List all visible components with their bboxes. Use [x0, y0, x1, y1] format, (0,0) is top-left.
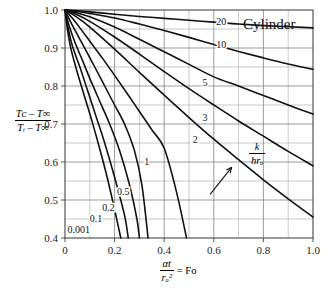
- y-axis-label: Tᴄ – T∞ Tᵢ – T∞: [4, 108, 62, 133]
- x-tick-label: 0.4: [157, 244, 171, 256]
- x-axis-numerator: αt: [160, 258, 174, 271]
- x-tick-label: 0: [62, 244, 68, 256]
- curve-label-5: 5: [203, 77, 208, 88]
- curve-label-0p2: 0.2: [102, 202, 115, 213]
- curve-label-1: 1: [144, 156, 149, 167]
- x-axis-equals-fo: = Fo: [174, 265, 197, 276]
- x-tick-label: 0.8: [257, 244, 271, 256]
- curve-label-0p5: 0.5: [117, 186, 130, 197]
- curve-label-2: 2: [193, 134, 198, 145]
- x-axis-label: αt rₒ² = Fo: [118, 258, 238, 283]
- curve-label-0p1: 0.1: [90, 213, 103, 224]
- chart-title: Cylinder: [243, 16, 296, 32]
- y-axis-denominator: Tᵢ – T∞: [16, 121, 49, 133]
- x-axis-fraction: αt rₒ²: [160, 258, 174, 283]
- curve-labels: 20201010553322110.50.50.20.20.10.10.0010…: [67, 16, 226, 235]
- y-axis-numerator: Tᴄ – T∞: [15, 108, 51, 121]
- x-axis-denominator: rₒ²: [160, 271, 174, 283]
- biot-numerator: k: [249, 141, 265, 154]
- y-tick-label: 1.0: [44, 4, 58, 16]
- curve-label-0p001: 0.001: [67, 224, 90, 235]
- biot-denominator: hrₒ: [249, 154, 265, 166]
- y-tick-label: 0.8: [44, 80, 58, 92]
- y-tick-label: 0.4: [44, 232, 58, 244]
- y-tick-label: 0.5: [44, 194, 58, 206]
- curve-label-20: 20: [216, 16, 226, 27]
- x-tick-label: 0.2: [108, 244, 122, 256]
- chart-plot-area: 20201010553322110.50.50.20.20.10.10.0010…: [0, 0, 330, 295]
- x-tick-label: 1.0: [306, 244, 320, 256]
- heisler-cylinder-chart: 20201010553322110.50.50.20.20.10.10.0010…: [0, 0, 330, 295]
- y-tick-label: 0.9: [44, 42, 58, 54]
- y-tick-label: 0.6: [44, 156, 58, 168]
- biot-inverse-label: k hrₒ: [249, 141, 265, 166]
- curve-label-3: 3: [203, 112, 208, 123]
- x-tick-labels: 00.20.40.60.81.0: [62, 244, 320, 256]
- curve-label-10: 10: [216, 39, 226, 50]
- x-tick-label: 0.6: [207, 244, 221, 256]
